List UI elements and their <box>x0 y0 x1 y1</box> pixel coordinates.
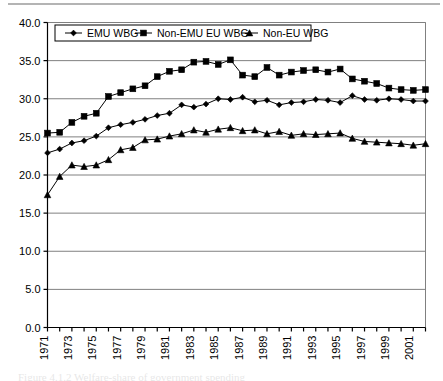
data-point-square <box>362 78 368 84</box>
data-point-square <box>167 68 173 74</box>
y-axis-tick-label: 20.0 <box>19 169 40 181</box>
data-point-diamond <box>301 99 307 105</box>
x-axis-tick-label: 1999 <box>379 336 391 360</box>
data-point-diamond <box>69 140 75 146</box>
legend-label: Non-EU WBG <box>263 27 328 39</box>
data-point-square <box>264 65 270 71</box>
x-axis-tick-label: 1981 <box>159 336 171 360</box>
y-axis-tick-label: 40.0 <box>19 17 40 29</box>
data-point-square <box>337 66 343 72</box>
y-axis-tick-label: 25.0 <box>19 131 40 143</box>
data-point-square <box>93 110 99 116</box>
data-point-square <box>179 67 185 73</box>
data-point-diamond <box>325 97 331 103</box>
series-line-square <box>48 60 426 133</box>
x-axis-tick-label: 1973 <box>62 336 74 360</box>
x-axis-tick-label: 1991 <box>281 336 293 360</box>
x-axis-tick-label: 1971 <box>38 336 50 360</box>
series-line-diamond <box>48 96 426 153</box>
data-point-diamond <box>106 125 112 131</box>
x-axis-tick-label: 1995 <box>330 336 342 360</box>
data-point-triangle <box>130 144 137 150</box>
data-point-square <box>191 59 197 65</box>
data-point-triangle <box>276 128 283 134</box>
data-point-diamond <box>179 102 185 108</box>
data-point-square <box>325 69 331 75</box>
data-point-diamond <box>191 104 197 110</box>
data-point-square <box>118 90 124 96</box>
data-point-diamond <box>57 146 63 152</box>
data-point-diamond <box>118 122 124 128</box>
data-point-diamond <box>374 97 380 103</box>
data-point-diamond <box>362 97 368 103</box>
data-point-diamond <box>203 101 209 107</box>
data-point-square <box>410 87 416 93</box>
data-point-square <box>154 74 160 80</box>
data-point-square <box>45 130 51 136</box>
data-point-diamond <box>398 97 404 103</box>
data-point-diamond <box>45 150 51 156</box>
data-point-square <box>398 87 404 93</box>
data-point-square <box>252 74 258 80</box>
data-point-diamond <box>81 138 87 144</box>
data-point-square <box>240 72 246 78</box>
x-axis-tick-label: 1985 <box>208 336 220 360</box>
data-point-diamond <box>313 97 319 103</box>
data-point-square <box>228 57 234 63</box>
legend-label: Non-EMU EU WBG <box>157 27 249 39</box>
data-point-diamond <box>386 96 392 102</box>
data-point-square <box>349 76 355 82</box>
data-point-square <box>130 86 136 92</box>
y-axis-tick-label: 15.0 <box>19 207 40 219</box>
data-point-square <box>106 94 112 100</box>
x-axis-tick-label: 1989 <box>257 336 269 360</box>
data-point-square <box>57 129 63 135</box>
data-point-square <box>69 119 75 125</box>
data-point-diamond <box>240 94 246 100</box>
series-line-triangle <box>48 128 426 195</box>
data-point-triangle <box>349 135 356 141</box>
figure-caption-cropped: Figure 4.1.2 Welfare-share of government… <box>18 371 318 381</box>
data-point-diamond <box>93 133 99 139</box>
data-point-diamond <box>337 100 343 106</box>
data-point-diamond <box>264 97 270 103</box>
data-point-diamond <box>154 113 160 119</box>
y-axis-tick-label: 5.0 <box>25 283 40 295</box>
x-axis-tick-label: 1975 <box>86 336 98 360</box>
x-axis-tick-label: 1987 <box>233 336 245 360</box>
data-point-triangle <box>44 192 51 198</box>
data-point-square <box>142 83 148 89</box>
x-axis-tick-label: 1983 <box>184 336 196 360</box>
x-axis-tick-label: 1997 <box>355 336 367 360</box>
data-point-diamond <box>288 100 294 106</box>
data-point-square <box>81 113 87 119</box>
data-point-diamond <box>130 119 136 125</box>
data-point-diamond <box>228 97 234 103</box>
data-point-diamond <box>142 116 148 122</box>
line-chart: 0.05.010.015.020.025.030.035.040.0197119… <box>0 0 443 381</box>
figure-root: 0.05.010.015.020.025.030.035.040.0197119… <box>0 0 443 381</box>
y-axis-tick-label: 30.0 <box>19 93 40 105</box>
data-point-diamond <box>215 96 221 102</box>
x-axis-tick-label: 1977 <box>111 336 123 360</box>
data-point-square <box>313 67 319 73</box>
y-axis-tick-label: 10.0 <box>19 245 40 257</box>
data-point-triangle <box>191 127 198 133</box>
x-axis-tick-label: 2001 <box>403 336 415 360</box>
x-axis-tick-label: 1979 <box>135 336 147 360</box>
data-point-square <box>203 58 209 64</box>
data-point-square <box>288 69 294 75</box>
y-axis-tick-label: 35.0 <box>19 55 40 67</box>
data-point-square <box>301 68 307 74</box>
data-point-square <box>423 87 429 93</box>
legend-label: EMU WBG <box>87 27 138 39</box>
y-axis-tick-label: 0.0 <box>25 322 40 334</box>
x-axis-tick-label: 1993 <box>306 336 318 360</box>
data-point-square <box>276 72 282 78</box>
data-point-diamond <box>276 102 282 108</box>
data-point-diamond <box>252 99 258 105</box>
data-point-square <box>374 81 380 87</box>
data-point-square <box>215 62 221 68</box>
data-point-square <box>386 85 392 91</box>
data-point-diamond <box>167 110 173 116</box>
